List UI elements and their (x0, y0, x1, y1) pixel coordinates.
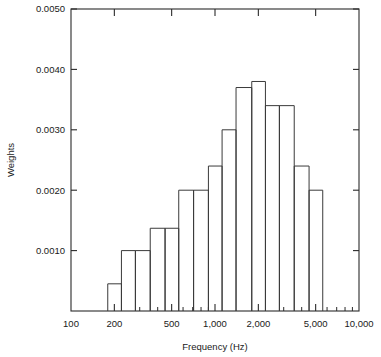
x-axis-title: Frequency (Hz) (182, 341, 247, 352)
x-axis-tick-labels: 1002005001,0002,0005,00010,000 (63, 318, 373, 329)
x-tick-label: 500 (164, 318, 180, 329)
y-tick-label: 0.0020 (36, 185, 65, 196)
x-tick-label: 2,000 (246, 318, 270, 329)
y-tick-label: 0.0040 (36, 64, 65, 75)
x-tick-label: 1,000 (203, 318, 227, 329)
y-tick-label: 0.0030 (36, 124, 65, 135)
x-tick-label: 100 (63, 318, 79, 329)
chart-background (0, 0, 381, 357)
y-axis-title: Weights (5, 143, 16, 177)
x-tick-label: 200 (106, 318, 122, 329)
x-tick-label: 10,000 (344, 318, 373, 329)
y-tick-label: 0.0050 (36, 3, 65, 14)
histogram-chart: 0.00100.00200.00300.00400.0050 100200500… (0, 0, 381, 357)
y-tick-label: 0.0010 (36, 245, 65, 256)
chart-figure: 0.00100.00200.00300.00400.0050 100200500… (0, 0, 381, 357)
x-tick-label: 5,000 (304, 318, 328, 329)
